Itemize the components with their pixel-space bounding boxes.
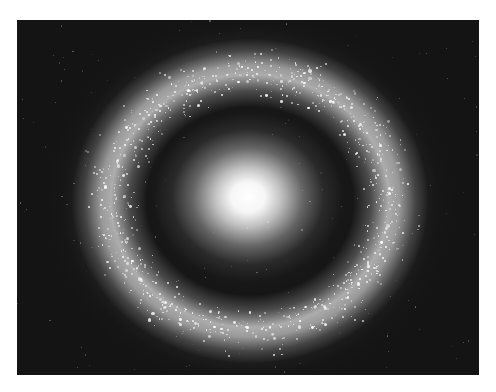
star-speck <box>148 318 152 322</box>
star-speck <box>120 154 121 155</box>
star-speck <box>304 306 306 308</box>
field-speck <box>224 89 225 90</box>
field-speck <box>189 365 190 366</box>
star-speck <box>147 98 149 100</box>
star-speck <box>309 328 310 329</box>
star-speck <box>296 330 297 331</box>
star-speck <box>137 307 139 309</box>
star-speck <box>123 105 125 107</box>
star-speck <box>122 166 124 168</box>
star-speck <box>122 256 124 258</box>
star-speck <box>367 239 369 241</box>
star-speck <box>142 271 143 272</box>
star-speck <box>351 272 352 273</box>
star-speck <box>351 316 352 317</box>
field-speck <box>476 106 477 107</box>
star-speck <box>113 150 114 151</box>
star-speck <box>122 174 125 177</box>
star-speck <box>343 105 345 107</box>
star-speck <box>133 133 134 134</box>
star-speck <box>293 78 295 80</box>
star-speck <box>130 290 131 291</box>
field-speck <box>81 347 82 348</box>
star-speck <box>257 79 259 81</box>
field-speck <box>456 358 458 360</box>
star-speck <box>356 273 358 275</box>
field-speck <box>341 206 342 207</box>
star-speck <box>362 126 363 127</box>
field-speck <box>446 48 447 49</box>
field-speck <box>91 129 92 130</box>
star-speck <box>142 259 143 260</box>
star-speck <box>197 92 198 93</box>
star-speck <box>199 77 200 78</box>
field-speck <box>430 185 432 187</box>
star-speck <box>115 198 117 200</box>
star-speck <box>260 53 262 55</box>
star-speck <box>126 208 127 209</box>
star-speck <box>125 169 126 170</box>
star-speck <box>189 323 190 324</box>
star-speck <box>87 151 89 153</box>
star-speck <box>209 83 210 84</box>
field-speck <box>446 213 447 214</box>
star-speck <box>356 264 358 266</box>
star-speck <box>205 319 207 321</box>
star-speck <box>109 267 111 269</box>
star-speck <box>345 274 347 276</box>
star-speck <box>331 317 333 319</box>
star-speck <box>362 320 364 322</box>
field-speck <box>328 286 330 288</box>
star-speck <box>378 241 380 243</box>
star-speck <box>246 80 249 83</box>
star-speck <box>197 104 200 107</box>
star-speck <box>228 355 231 358</box>
star-speck <box>271 84 273 86</box>
star-speck <box>342 298 344 300</box>
star-speck <box>366 281 368 283</box>
star-speck <box>303 85 305 87</box>
star-speck <box>369 279 371 281</box>
star-speck <box>319 103 320 104</box>
field-speck <box>23 118 24 119</box>
field-speck <box>182 333 183 334</box>
star-speck <box>271 333 274 336</box>
star-speck <box>183 71 185 73</box>
star-speck <box>237 81 239 83</box>
star-speck <box>400 139 402 141</box>
star-speck <box>395 196 396 197</box>
star-speck <box>264 70 266 72</box>
field-speck <box>179 30 180 31</box>
star-speck <box>294 74 295 75</box>
star-speck <box>356 166 357 167</box>
field-speck <box>476 154 478 156</box>
star-speck <box>379 244 380 245</box>
star-speck <box>363 121 365 123</box>
star-speck <box>133 140 134 141</box>
field-speck <box>299 136 300 137</box>
star-speck <box>143 293 145 295</box>
star-speck <box>338 94 340 96</box>
field-speck <box>464 98 465 99</box>
star-speck <box>153 126 155 128</box>
star-speck <box>290 318 292 320</box>
star-speck <box>354 92 357 95</box>
field-speck <box>278 312 280 314</box>
star-speck <box>124 144 126 146</box>
star-speck <box>126 241 128 243</box>
star-speck <box>354 244 355 245</box>
star-speck <box>319 329 321 331</box>
star-speck <box>210 321 212 323</box>
star-speck <box>404 149 406 151</box>
star-speck <box>129 292 130 293</box>
star-speck <box>225 350 227 352</box>
star-speck <box>350 279 352 281</box>
star-speck <box>347 261 349 263</box>
star-speck <box>389 208 391 210</box>
star-speck <box>322 301 323 302</box>
star-speck <box>354 306 356 308</box>
star-speck <box>165 112 166 113</box>
star-speck <box>99 236 100 237</box>
star-speck <box>386 169 387 170</box>
star-speck <box>147 158 148 159</box>
